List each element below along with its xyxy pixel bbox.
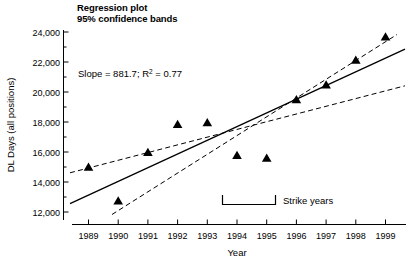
slope-r2-text: Slope = 881.7; R (78, 68, 149, 79)
y-tick-label: 12,000 (32, 208, 60, 218)
y-tick-label: 22,000 (32, 58, 60, 68)
data-point-marker (113, 196, 123, 204)
strike-years-legend: Strike years (223, 195, 334, 206)
y-axis-label: DL Days (all positions) (5, 78, 16, 173)
chart-subtitle: 95% confidence bands (77, 13, 177, 24)
y-tick-label: 14,000 (32, 178, 60, 188)
x-tick-label: 1999 (375, 231, 395, 241)
chart-canvas: Regression plot 95% confidence bands (0, 0, 415, 263)
x-tick-label: 1995 (257, 231, 277, 241)
x-tick-label: 1994 (227, 231, 247, 241)
slope-r2-annotation: Slope = 881.7; R2 = 0.77 (78, 68, 182, 80)
x-tick-label: 1989 (78, 231, 98, 241)
chart-title: Regression plot (77, 2, 148, 13)
slope-r2-text-after: = 0.77 (153, 68, 182, 79)
confidence-band-upper (70, 86, 405, 173)
data-point-marker (351, 56, 361, 64)
x-tick-label: 1993 (197, 231, 217, 241)
x-tick-label: 1996 (286, 231, 306, 241)
x-tick-label: 1990 (108, 231, 128, 241)
data-point-marker (84, 163, 94, 171)
y-tick-label: 16,000 (32, 148, 60, 158)
y-tick-label: 24,000 (32, 28, 60, 38)
data-point-marker (381, 32, 391, 40)
data-point-marker (173, 120, 183, 128)
data-points (84, 32, 391, 204)
strike-years-legend-label: Strike years (283, 195, 333, 206)
x-tick-label: 1992 (168, 231, 188, 241)
x-tick-label: 1991 (138, 231, 158, 241)
x-tick-label: 1998 (346, 231, 366, 241)
data-point-marker (203, 118, 213, 126)
x-axis-label: Year (227, 247, 246, 258)
regression-plot-figure: Regression plot 95% confidence bands (0, 0, 415, 263)
y-tick-label: 20,000 (32, 88, 60, 98)
x-axis (72, 220, 406, 225)
data-point-marker (262, 154, 272, 162)
y-axis (64, 30, 69, 220)
y-tick-label: 18,000 (32, 118, 60, 128)
x-tick-label: 1997 (316, 231, 336, 241)
data-point-marker (232, 151, 242, 159)
